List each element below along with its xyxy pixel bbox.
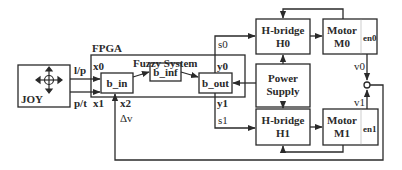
joystick-label: JOY xyxy=(21,94,43,105)
y1-label: y1 xyxy=(217,98,228,109)
s1-label: s1 xyxy=(218,115,228,126)
encoder-en0-label: en0 xyxy=(363,33,377,44)
hbridge-h0-text: H-bridge H0 xyxy=(256,24,310,50)
joystick-cross-icon xyxy=(36,67,62,93)
y0-label: y0 xyxy=(217,61,228,72)
hbridge-h1-text: H-bridge H1 xyxy=(256,114,310,140)
s0-label: s0 xyxy=(218,39,228,50)
b-out-label: b_out xyxy=(199,77,232,90)
b-in-label: b_in xyxy=(101,77,133,90)
motor-m1-text: Motor M1 xyxy=(323,114,361,140)
x0-label: x0 xyxy=(93,61,104,72)
power-supply-text: Power Supply xyxy=(256,72,310,98)
v0-label: v0 xyxy=(354,61,365,72)
b-inf-label: b_inf xyxy=(150,66,181,79)
encoder-en1-label: en1 xyxy=(363,124,377,135)
fpga-label: FPGA xyxy=(92,43,122,54)
delta-v-label: Δv xyxy=(120,113,133,124)
x2-label: x2 xyxy=(120,98,131,109)
input-pt-label: p/t xyxy=(74,98,87,109)
x1-label: x1 xyxy=(93,98,104,109)
v1-label: v1 xyxy=(354,97,365,108)
motor-m0-text: Motor M0 xyxy=(323,24,361,50)
input-lp-label: l/p xyxy=(74,65,86,76)
summing-junction xyxy=(364,82,370,88)
